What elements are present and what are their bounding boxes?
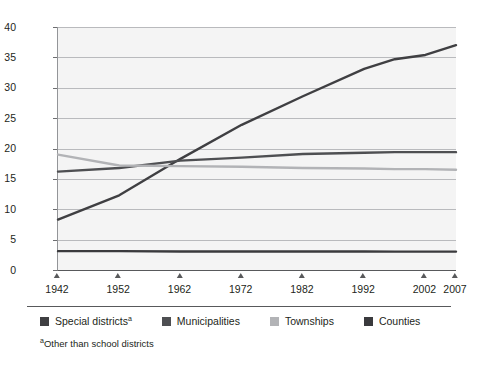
legend-swatch (270, 317, 279, 326)
x-tick-label: 1962 (168, 283, 191, 295)
x-tick-label: 1952 (107, 283, 130, 295)
x-tick-mark (237, 273, 243, 278)
legend-label: Counties (379, 316, 420, 327)
x-tick-mark (421, 273, 427, 278)
x-tick-mark (360, 273, 366, 278)
legend-item[interactable]: Counties (364, 316, 420, 327)
x-tick-label: 1972 (229, 283, 252, 295)
legend-swatch (162, 317, 171, 326)
x-tick-mark (299, 273, 305, 278)
y-tick-label: 5 (0, 234, 16, 245)
legend-swatch (364, 317, 373, 326)
x-tick-label: 1982 (290, 283, 313, 295)
legend-item[interactable]: Special districtsa (40, 316, 132, 327)
footnote-text: Other than school districts (44, 338, 154, 349)
legend-item[interactable]: Townships (270, 316, 334, 327)
y-tick-label: 10 (0, 204, 16, 215)
x-tick-mark (176, 273, 182, 278)
y-tick-label: 35 (0, 52, 16, 63)
x-tick-label: 1992 (352, 283, 375, 295)
x-tick-label: 1942 (45, 283, 68, 295)
legend-item[interactable]: Municipalities (162, 316, 240, 327)
plot-area (57, 27, 456, 271)
x-tick-label: 2002 (413, 283, 436, 295)
legend-divider (27, 306, 451, 307)
footnote: aOther than school districts (40, 338, 154, 349)
x-tick-label: 2007 (443, 283, 466, 295)
legend-label: Special districtsa (55, 316, 132, 327)
x-tick-mark (115, 273, 121, 278)
chart-legend: Special districtsaMunicipalitiesTownship… (40, 316, 450, 327)
legend-label: Municipalities (177, 316, 240, 327)
chart-figure: Thousands 0510152025303540 1942195219621… (0, 0, 478, 369)
y-tick-label: 0 (0, 265, 16, 276)
y-tick-label: 30 (0, 82, 16, 93)
series-line (58, 45, 456, 219)
y-tick-label: 40 (0, 22, 16, 33)
legend-label: Townships (285, 316, 334, 327)
x-tick-mark (452, 273, 458, 278)
legend-swatch (40, 317, 49, 326)
series-lines (58, 27, 456, 270)
x-tick-mark (54, 273, 60, 278)
y-tick-label: 15 (0, 173, 16, 184)
legend-footnote-marker: a (128, 315, 132, 322)
y-tick-label: 25 (0, 113, 16, 124)
y-tick-label: 20 (0, 143, 16, 154)
